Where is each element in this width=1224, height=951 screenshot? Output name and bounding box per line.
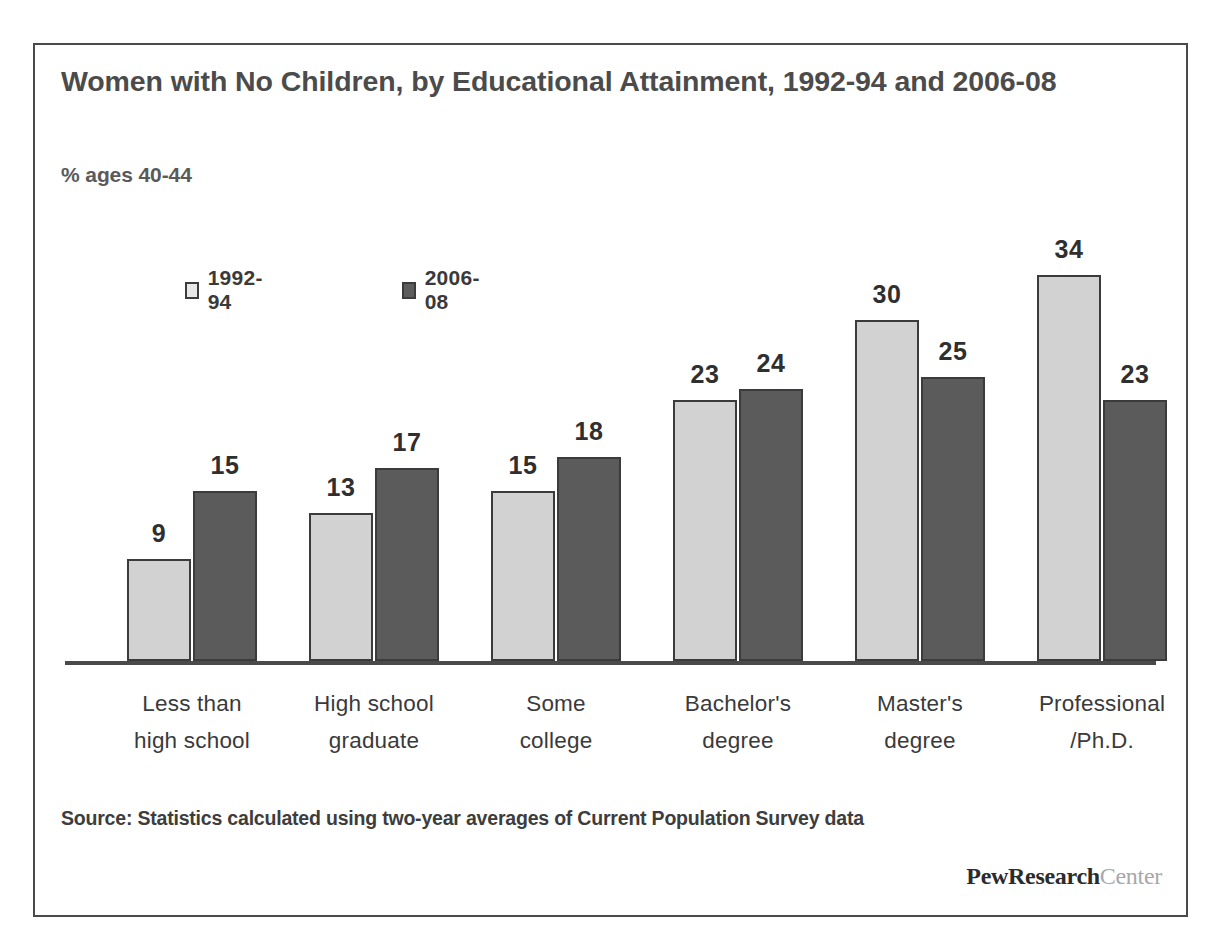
logo-secondary-text: Center xyxy=(1100,863,1162,889)
logo-primary-text: PewResearch xyxy=(966,863,1100,889)
bar-1992-94-professional-ph-d- xyxy=(1037,275,1101,661)
value-label-2006-08-master-s-degree: 25 xyxy=(903,337,1003,366)
x-axis-label-line: Professional xyxy=(1010,685,1194,722)
x-axis-label-line: Master's xyxy=(828,685,1012,722)
x-axis-label-bachelor-s-degree: Bachelor'sdegree xyxy=(646,685,830,759)
bar-2006-08-bachelor-s-degree xyxy=(739,389,803,661)
x-axis-label-line: Less than xyxy=(100,685,284,722)
x-axis-label-line: college xyxy=(464,722,648,759)
plot-area: 915Less thanhigh school1317High schoolgr… xyxy=(35,45,1190,919)
chart-figure: Women with No Children, by Educational A… xyxy=(33,43,1188,917)
bar-1992-94-high-school-graduate xyxy=(309,513,373,661)
x-axis-line xyxy=(65,661,1156,665)
value-label-2006-08-professional-ph-d-: 23 xyxy=(1085,360,1185,389)
x-axis-label-professional-ph-d-: Professional/Ph.D. xyxy=(1010,685,1194,759)
x-axis-label-line: graduate xyxy=(282,722,466,759)
bar-1992-94-bachelor-s-degree xyxy=(673,400,737,661)
x-axis-label-some-college: Somecollege xyxy=(464,685,648,759)
x-axis-label-master-s-degree: Master'sdegree xyxy=(828,685,1012,759)
x-axis-label-line: degree xyxy=(828,722,1012,759)
bar-2006-08-high-school-graduate xyxy=(375,468,439,661)
value-label-2006-08-high-school-graduate: 17 xyxy=(357,428,457,457)
value-label-2006-08-some-college: 18 xyxy=(539,417,639,446)
value-label-1992-94-master-s-degree: 30 xyxy=(837,280,937,309)
value-label-2006-08-bachelor-s-degree: 24 xyxy=(721,349,821,378)
bar-2006-08-master-s-degree xyxy=(921,377,985,661)
x-axis-label-line: degree xyxy=(646,722,830,759)
value-label-1992-94-professional-ph-d-: 34 xyxy=(1019,235,1119,264)
source-note: Source: Statistics calculated using two-… xyxy=(61,807,864,830)
x-axis-label-line: /Ph.D. xyxy=(1010,722,1194,759)
bar-1992-94-some-college xyxy=(491,491,555,661)
bar-1992-94-master-s-degree xyxy=(855,320,919,661)
pew-research-center-logo: PewResearchCenter xyxy=(966,863,1162,890)
bar-2006-08-some-college xyxy=(557,457,621,661)
x-axis-label-line: High school xyxy=(282,685,466,722)
bar-2006-08-professional-ph-d- xyxy=(1103,400,1167,661)
value-label-2006-08-less-than-high-school: 15 xyxy=(175,451,275,480)
x-axis-label-less-than-high-school: Less thanhigh school xyxy=(100,685,284,759)
x-axis-label-line: Some xyxy=(464,685,648,722)
x-axis-label-line: high school xyxy=(100,722,284,759)
x-axis-label-high-school-graduate: High schoolgraduate xyxy=(282,685,466,759)
x-axis-label-line: Bachelor's xyxy=(646,685,830,722)
bar-2006-08-less-than-high-school xyxy=(193,491,257,661)
bar-1992-94-less-than-high-school xyxy=(127,559,191,661)
